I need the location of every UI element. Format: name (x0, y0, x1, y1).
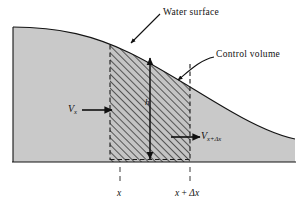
control-volume-label: Control volume (216, 50, 280, 60)
figure-container: Water surface Control volume Vx Vx+Δx h … (0, 0, 305, 212)
station-delta-x: Δx (189, 188, 199, 198)
water-surface-leader (131, 14, 160, 43)
station-plus-operator: + (179, 188, 189, 198)
velocity-out-subscript: x+Δx (207, 135, 221, 142)
diagram-canvas (0, 0, 305, 212)
station-label-x-delta: x + Δx (175, 189, 199, 199)
velocity-out-label: Vx+Δx (201, 131, 221, 141)
control-volume-leader (178, 57, 214, 80)
velocity-in-subscript: x (74, 108, 77, 115)
water-surface-label: Water surface (163, 8, 219, 18)
depth-label: h (145, 98, 150, 107)
velocity-in-label: Vx (68, 104, 77, 114)
station-label-x: x (117, 189, 121, 199)
